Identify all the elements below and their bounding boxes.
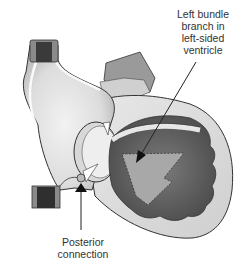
label-line: branch in (166, 20, 240, 32)
label-line: Left bundle (166, 8, 240, 20)
heart-diagram: Left bundle branch in left-sided ventric… (0, 0, 240, 269)
upper-flap (100, 52, 155, 100)
label-line: ventricle (166, 44, 240, 56)
label-line: Posterior (52, 236, 114, 248)
superior-vessel (30, 40, 58, 62)
left-bundle-branch-label: Left bundle branch in left-sided ventric… (166, 8, 240, 56)
posterior-connection-label: Posterior connection (52, 236, 114, 260)
label-line: left-sided (166, 32, 240, 44)
posterior-connection-node (77, 174, 85, 182)
posterior-connection-arrow (75, 183, 87, 230)
label-line: connection (52, 248, 114, 260)
